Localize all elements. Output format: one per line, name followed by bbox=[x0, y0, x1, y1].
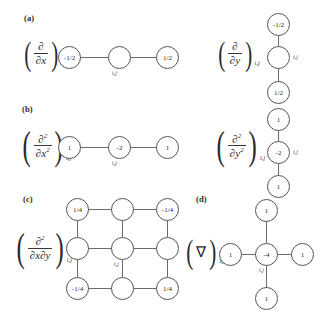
stencil-edge bbox=[77, 259, 78, 277]
stencil-node-center bbox=[108, 46, 131, 69]
panel-label-d: (d) bbox=[196, 194, 207, 204]
fraction-numerator: ∂2 bbox=[36, 133, 49, 145]
stencil-node: 1 bbox=[255, 199, 278, 222]
center-index-tag: i,j bbox=[114, 261, 119, 267]
stencil-node bbox=[66, 237, 89, 260]
stencil-node: 1/2 bbox=[156, 46, 179, 69]
stencil-node: 1 bbox=[255, 287, 278, 310]
stencil-node: 1 bbox=[58, 136, 81, 159]
stencil-node: 1 bbox=[291, 243, 314, 266]
fraction-d2-dx2: ∂2 ∂x2 bbox=[34, 133, 52, 160]
center-index-tag: i,j bbox=[112, 70, 117, 76]
fraction-d2-dxdy: ∂2 ∂x∂y bbox=[28, 235, 53, 261]
fraction-denominator: ∂y bbox=[228, 54, 242, 67]
fraction-d-dx: ∂ ∂x bbox=[34, 41, 48, 66]
stencil-edge bbox=[266, 266, 267, 288]
stencil-node-center: -2 bbox=[108, 136, 131, 159]
stencil-node: 1/2 bbox=[267, 81, 290, 104]
paren-close-icon: ) bbox=[56, 232, 64, 265]
fraction-numerator: ∂2 bbox=[230, 133, 243, 145]
operator-subscript: i,j bbox=[254, 59, 259, 68]
stencil-node: 1 bbox=[219, 243, 242, 266]
stencil-edge bbox=[167, 220, 168, 237]
operator-subscript: i,j bbox=[260, 154, 265, 163]
stencil-edge bbox=[167, 259, 168, 277]
paren-close-icon: ) bbox=[51, 40, 58, 68]
paren-open-icon: ( bbox=[217, 130, 225, 163]
operator-d2-dxdy: ( ∂2 ∂x∂y ) i,j bbox=[14, 232, 72, 265]
stencil-node: 1 bbox=[156, 136, 179, 159]
stencil-node: -1/4 bbox=[66, 277, 89, 300]
fraction-denominator: ∂x2 bbox=[34, 146, 52, 159]
stencil-node bbox=[156, 237, 179, 260]
fraction-denominator: ∂y2 bbox=[228, 146, 246, 159]
center-index-tag: i,j bbox=[293, 54, 298, 60]
fraction-denominator: ∂x bbox=[34, 54, 48, 67]
stencil-node: -1/2 bbox=[267, 13, 290, 36]
stencil-node-center: -2 bbox=[267, 141, 290, 164]
fraction-numerator: ∂ bbox=[36, 41, 45, 53]
stencil-node: -1/4 bbox=[156, 198, 179, 221]
stencil-edge bbox=[266, 221, 267, 243]
panel-label-c: (c) bbox=[23, 194, 33, 204]
center-index-tag: i,j bbox=[259, 267, 264, 273]
stencil-node bbox=[111, 277, 134, 300]
paren-open-icon: ( bbox=[17, 232, 25, 265]
nabla-icon: ∇ bbox=[195, 243, 207, 261]
paren-open-icon: ( bbox=[24, 40, 31, 68]
stencil-edge bbox=[77, 220, 78, 237]
fraction-d2-dy2: ∂2 ∂y2 bbox=[228, 133, 246, 160]
fraction-numerator: ∂2 bbox=[34, 235, 47, 247]
panel-label-a: (a) bbox=[24, 13, 34, 23]
fraction-denominator: ∂x∂y bbox=[28, 249, 53, 262]
paren-open-icon: ( bbox=[186, 238, 193, 266]
stencil-node: 1/4 bbox=[156, 277, 179, 300]
stencil-node-center bbox=[111, 237, 134, 260]
operator-d-dy: ( ∂ ∂y ) i,j bbox=[216, 40, 260, 68]
center-index-tag: i,j bbox=[293, 149, 298, 155]
stencil-node: 1 bbox=[267, 108, 290, 131]
paren-close-icon: ) bbox=[249, 130, 257, 163]
stencil-node: 1/4 bbox=[66, 198, 89, 221]
figure-canvas: (a) ( ∂ ∂x ) i,j -1/2 1/2 i,j ( ∂ ∂y ) i… bbox=[0, 0, 326, 329]
stencil-node-center: -4 bbox=[255, 243, 278, 266]
stencil-node-center bbox=[267, 46, 290, 69]
center-index-tag: i,j bbox=[112, 160, 117, 166]
stencil-node: -1/2 bbox=[58, 46, 81, 69]
paren-close-icon: ) bbox=[209, 238, 216, 266]
paren-close-icon: ) bbox=[245, 40, 252, 68]
stencil-node: 1 bbox=[267, 175, 290, 198]
paren-open-icon: ( bbox=[218, 40, 225, 68]
paren-open-icon: ( bbox=[23, 130, 31, 163]
operator-d2-dy2: ( ∂2 ∂y2 ) i,j bbox=[214, 130, 265, 163]
stencil-edge bbox=[122, 259, 123, 277]
fraction-numerator: ∂ bbox=[230, 41, 239, 53]
stencil-edge bbox=[122, 220, 123, 237]
stencil-node bbox=[111, 198, 134, 221]
panel-label-b: (b) bbox=[22, 104, 33, 114]
fraction-d-dy: ∂ ∂y bbox=[228, 41, 242, 66]
